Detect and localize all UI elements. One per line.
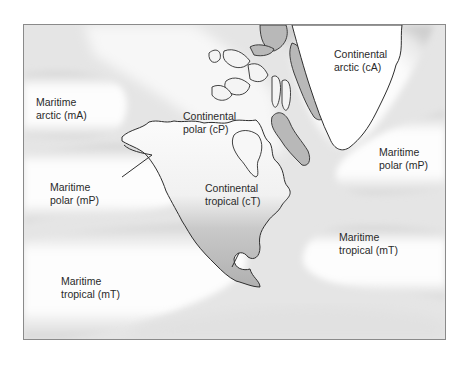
label-cA-line1: Continental [334,48,387,61]
label-cT: Continental tropical (cT) [205,182,260,208]
label-mP-atlantic-line2: polar (mP) [379,159,428,172]
label-cT-line2: tropical (cT) [205,195,260,208]
label-cA-line2: arctic (cA) [334,61,387,74]
label-mA-line1: Maritime [36,96,87,109]
label-mP-atlantic: Maritime polar (mP) [379,146,428,172]
label-mP-pacific: Maritime polar (mP) [50,181,99,207]
label-mA-line2: arctic (mA) [36,109,87,122]
label-mA: Maritime arctic (mA) [36,96,87,122]
label-cP-line1: Continental [183,110,236,123]
label-mT-atlantic-line1: Maritime [339,231,398,244]
map-frame: Maritime arctic (mA) Continental arctic … [23,24,446,340]
label-mP-pacific-line2: polar (mP) [50,194,99,207]
label-cT-line1: Continental [205,182,260,195]
label-mP-pacific-line1: Maritime [50,181,99,194]
label-cP: Continental polar (cP) [183,110,236,136]
label-mP-atlantic-line1: Maritime [379,146,428,159]
label-mT-atlantic-line2: tropical (mT) [339,244,398,257]
label-mT-pacific-line1: Maritime [61,275,120,288]
label-mT-pacific: Maritime tropical (mT) [61,275,120,301]
label-cA: Continental arctic (cA) [334,48,387,74]
label-mT-atlantic: Maritime tropical (mT) [339,231,398,257]
label-cP-line2: polar (cP) [183,123,236,136]
label-mT-pacific-line2: tropical (mT) [61,288,120,301]
